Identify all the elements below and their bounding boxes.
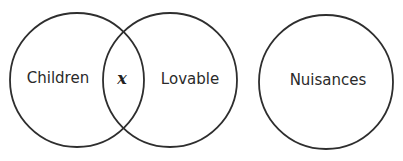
label-nuisances: Nuisances <box>290 71 367 89</box>
venn-diagram: Children Lovable Nuisances x <box>0 0 403 161</box>
label-children: Children <box>27 69 89 87</box>
set-nuisances: Nuisances <box>259 15 393 149</box>
label-lovable: Lovable <box>161 70 219 88</box>
intersection-element-x: x <box>116 69 127 88</box>
